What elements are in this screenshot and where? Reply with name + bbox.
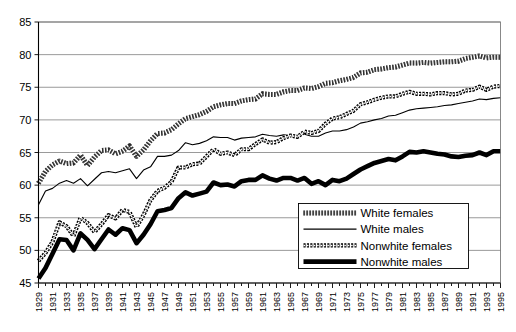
legend-label-nonwhite-males: Nonwhite males	[361, 256, 443, 268]
legend-label-white-males: White males	[361, 223, 425, 235]
x-tick-label-1975: 1975	[356, 292, 366, 312]
x-tick-label-1979: 1979	[384, 292, 394, 312]
x-tick-label-1971: 1971	[328, 292, 338, 312]
x-tick-label-1977: 1977	[370, 292, 380, 312]
y-tick-label-75: 75	[19, 81, 31, 93]
y-tick-label-60: 60	[19, 179, 31, 191]
x-tick-label-1931: 1931	[48, 292, 58, 312]
legend: White femalesWhite malesNonwhite females…	[299, 204, 469, 269]
x-tick-label-1951: 1951	[188, 292, 198, 312]
chart-canvas: 455055606570758085 192919311933193519371…	[0, 0, 516, 332]
x-tick-label-1929: 1929	[34, 292, 44, 312]
x-tick-label-1973: 1973	[342, 292, 352, 312]
life-expectancy-chart: 455055606570758085 192919311933193519371…	[0, 0, 516, 332]
x-tick-label-1943: 1943	[132, 292, 142, 312]
x-tick-label-1995: 1995	[496, 292, 506, 312]
y-tick-label-45: 45	[19, 277, 31, 289]
x-tick-label-1945: 1945	[146, 292, 156, 312]
x-tick-label-1953: 1953	[202, 292, 212, 312]
legend-label-white-females: White females	[361, 207, 434, 219]
x-tick-label-1983: 1983	[412, 292, 422, 312]
y-tick-label-65: 65	[19, 147, 31, 159]
x-tick-label-1965: 1965	[286, 292, 296, 312]
x-tick-label-1989: 1989	[454, 292, 464, 312]
x-tick-label-1969: 1969	[314, 292, 324, 312]
x-tick-label-1959: 1959	[244, 292, 254, 312]
x-tick-label-1993: 1993	[482, 292, 492, 312]
x-tick-label-1981: 1981	[398, 292, 408, 312]
y-tick-label-50: 50	[19, 244, 31, 256]
x-tick-label-1937: 1937	[90, 292, 100, 312]
x-tick-label-1941: 1941	[118, 292, 128, 312]
x-tick-label-1961: 1961	[258, 292, 268, 312]
x-tick-label-1947: 1947	[160, 292, 170, 312]
chart-background	[0, 0, 516, 332]
legend-label-nonwhite-females: Nonwhite females	[361, 240, 453, 252]
y-tick-label-80: 80	[19, 49, 31, 61]
y-tick-label-70: 70	[19, 114, 31, 126]
x-tick-label-1991: 1991	[468, 292, 478, 312]
x-tick-label-1935: 1935	[76, 292, 86, 312]
x-tick-label-1967: 1967	[300, 292, 310, 312]
x-tick-label-1955: 1955	[216, 292, 226, 312]
y-tick-label-55: 55	[19, 212, 31, 224]
x-tick-label-1957: 1957	[230, 292, 240, 312]
x-tick-label-1949: 1949	[174, 292, 184, 312]
x-tick-label-1933: 1933	[62, 292, 72, 312]
x-tick-label-1963: 1963	[272, 292, 282, 312]
x-tick-label-1985: 1985	[426, 292, 436, 312]
x-tick-label-1939: 1939	[104, 292, 114, 312]
y-tick-label-85: 85	[19, 16, 31, 28]
x-tick-label-1987: 1987	[440, 292, 450, 312]
